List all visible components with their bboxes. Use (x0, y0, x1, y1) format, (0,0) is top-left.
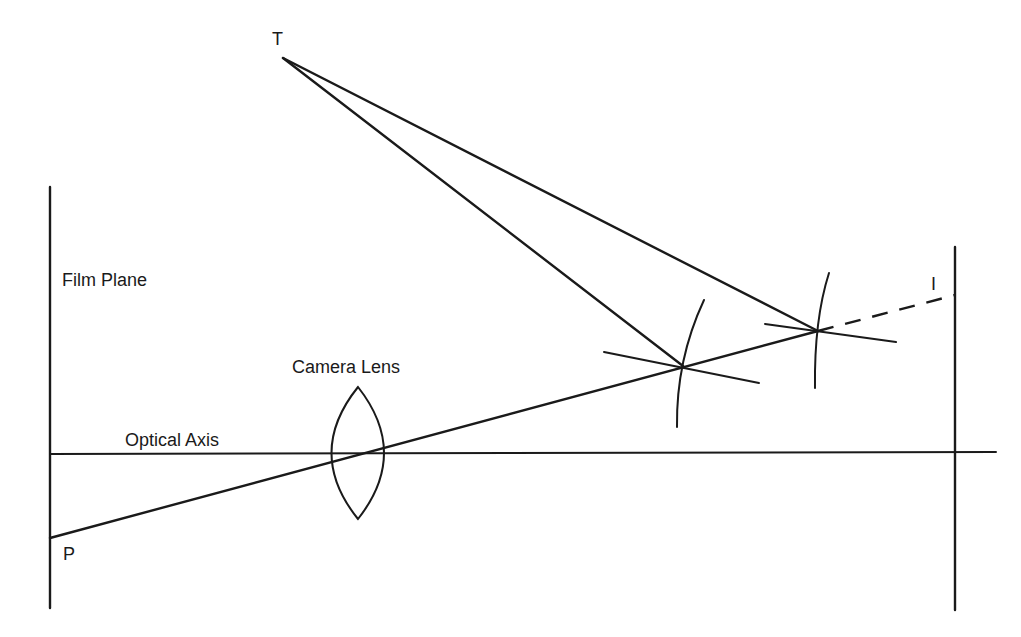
ray-t-to-intersection-1 (283, 58, 683, 366)
dashed-extension-to-i (818, 295, 955, 331)
label-image: I (931, 274, 936, 294)
label-optical-axis: Optical Axis (125, 430, 219, 450)
optical-axis-line (50, 452, 996, 454)
optical-diagram: T Film Plane Camera Lens Optical Axis P … (0, 0, 1021, 637)
intersection-marker-2 (765, 273, 896, 388)
label-camera-lens: Camera Lens (292, 357, 400, 377)
label-film-plane: Film Plane (62, 270, 147, 290)
label-point-p: P (63, 544, 75, 564)
ray-t-to-intersection-2 (283, 58, 818, 331)
label-target: T (272, 29, 283, 49)
